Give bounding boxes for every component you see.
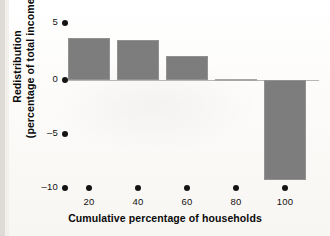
y-axis-title-line2: (percentage of total income): [23, 0, 36, 152]
xtick-dot-100: [282, 185, 288, 191]
xtick-label-80: 80: [216, 196, 256, 207]
ytick-label-minus10: –10: [24, 181, 58, 192]
ytick-dot-minus10: [62, 185, 68, 191]
ytick-dot-0: [62, 77, 68, 83]
xtick-dot-20: [86, 185, 92, 191]
xtick-label-20: 20: [69, 196, 109, 207]
xtick-label-100: 100: [265, 196, 305, 207]
xtick-dot-80: [233, 185, 239, 191]
figure-container: 5 0 –5 –10 20 40 60 80 100 Cumulative pe…: [0, 0, 330, 236]
bar-20: [68, 38, 110, 80]
xtick-label-60: 60: [167, 196, 207, 207]
ytick-dot-minus5: [62, 131, 68, 137]
x-axis-title: Cumulative percentage of households: [0, 212, 330, 224]
bar-100: [264, 80, 306, 180]
bar-60: [166, 56, 208, 80]
bar-80: [215, 79, 257, 81]
plot-area: 5 0 –5 –10 20 40 60 80 100: [0, 0, 330, 236]
xtick-dot-40: [135, 185, 141, 191]
ytick-dot-5: [62, 20, 68, 26]
y-axis-title: Redistribution (percentage of total inco…: [11, 0, 36, 152]
bar-40: [117, 40, 159, 80]
xtick-label-40: 40: [118, 196, 158, 207]
xtick-dot-60: [184, 185, 190, 191]
y-axis-title-line1: Redistribution: [11, 30, 23, 103]
